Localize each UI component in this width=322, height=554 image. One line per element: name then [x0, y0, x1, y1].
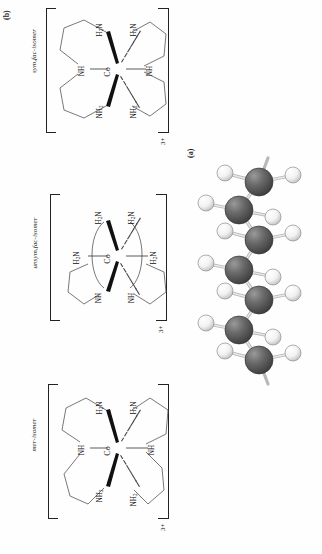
metal-label-unsym-fac: Co: [103, 254, 112, 263]
donor-label-upper-left: H2N: [95, 211, 103, 225]
donor-label-lower-left: NH: [95, 293, 103, 303]
structure-drawing-unsym-fac: Co H2N H2N H2N H2N NH NH: [44, 188, 174, 328]
isomer-name-unsym-fac: unsym,fac-isomer: [30, 206, 40, 280]
carbon-atom: [245, 286, 273, 314]
hydrogen-atom: [265, 329, 281, 345]
hydrogen-atom: [285, 285, 301, 301]
structure-sym-fac: 3+: [44, 2, 174, 138]
donor-label-left: NH: [78, 445, 86, 455]
donor-label-upper-left: H2N: [96, 401, 104, 415]
structure-mer: 3+: [44, 378, 174, 530]
figure-canvas: (b) sym,fac-isomer 3+: [0, 0, 322, 554]
molecule-model: [190, 160, 320, 400]
donor-label-right: H2N: [150, 251, 158, 265]
donor-label-upper-right: H2N: [130, 23, 138, 37]
carbon-atom: [225, 316, 253, 344]
donor-label-right: NH: [148, 445, 156, 455]
donor-label-lower-right: NH2: [130, 105, 138, 118]
donor-label-left: NH: [78, 66, 86, 76]
carbon-atom: [245, 168, 273, 196]
molecule-drawing: [190, 160, 320, 400]
hydrogen-atom: [217, 343, 233, 359]
donor-label-upper-right: H2N: [130, 401, 138, 415]
carbon-atom: [225, 256, 253, 284]
hydrogen-atom: [285, 225, 301, 241]
hydrogen-atom: [285, 345, 301, 361]
hydrogen-atom: [265, 209, 281, 225]
isomer-name-sym-fac: sym,fac-isomer: [29, 21, 39, 81]
donor-label-lower-left: NH2: [96, 489, 104, 502]
hydrogen-atom: [217, 283, 233, 299]
carbon-atom: [245, 226, 273, 254]
metal-label-sym-fac: Co: [103, 67, 112, 76]
donor-label-lower-left: NH2: [96, 105, 104, 118]
panel-b-label: (b): [2, 4, 18, 20]
hydrogen-atom: [285, 167, 301, 183]
donor-label-lower-right: NH: [128, 293, 136, 303]
structure-drawing-sym-fac: Co H2N H2N NH NH NH2 NH2: [44, 2, 174, 138]
donor-label-upper-right: H2N: [128, 211, 136, 225]
hydrogen-atom: [217, 165, 233, 181]
hydrogen-atom: [217, 223, 233, 239]
donor-label-right: NH: [146, 66, 154, 76]
structure-drawing-mer: Co H2N H2N NH NH NH2 NH2: [44, 378, 174, 530]
hydrogen-atom: [265, 269, 281, 285]
structure-unsym-fac: 3+: [44, 188, 174, 328]
panel-a-label: (a): [186, 142, 202, 158]
carbon-atom: [245, 346, 273, 374]
carbon-atom: [225, 196, 253, 224]
isomer-name-mer: mer-isomer: [29, 407, 39, 463]
donor-label-lower-right: NH2: [130, 493, 138, 506]
hydrogen-atom: [198, 195, 214, 211]
hydrogen-atom: [198, 255, 214, 271]
hydrogen-atom: [198, 315, 214, 331]
donor-label-upper-left: H2N: [96, 23, 104, 37]
metal-label-mer: Co: [103, 446, 112, 455]
donor-label-left: H2N: [73, 251, 81, 265]
